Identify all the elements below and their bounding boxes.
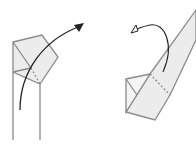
step-1-figure — [13, 35, 58, 140]
hollow-arrowhead-icon — [131, 25, 138, 33]
origami-diagram — [0, 0, 196, 157]
